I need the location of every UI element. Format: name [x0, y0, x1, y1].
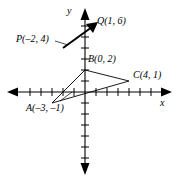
x-axis-arrow-left — [7, 88, 18, 97]
vector-pq — [63, 22, 98, 48]
x-axis-label: x — [160, 98, 164, 108]
coordinate-plane-svg — [0, 0, 179, 179]
x-axis-arrow-right — [161, 88, 172, 97]
point-label-q: Q(1, 6) — [97, 16, 126, 26]
point-label-b: B(0, 2) — [88, 54, 116, 64]
y-axis-label: y — [67, 6, 71, 16]
y-axis-arrow-bottom — [81, 163, 90, 175]
leader-line-p — [55, 41, 68, 45]
coordinate-plane-figure: Q(1, 6) P(–2, 4) B(0, 2) C(4, 1) A(–3, –… — [0, 0, 179, 179]
y-axis-arrow-top — [81, 8, 90, 20]
point-label-c: C(4, 1) — [133, 70, 161, 80]
point-label-p: P(–2, 4) — [16, 34, 49, 44]
point-label-a: A(–3, –1) — [26, 103, 64, 113]
